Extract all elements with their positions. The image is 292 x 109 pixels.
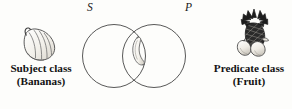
pineapple-fruit-icon	[234, 8, 276, 58]
subject-class-line1: Subject class	[10, 62, 71, 74]
banana-bunch-icon	[17, 27, 61, 63]
venn-diagram-figure: S P Subject class (Bananas)	[0, 0, 292, 109]
subject-class-line2: (Bananas)	[0, 75, 82, 88]
banana-crescent-icon	[129, 36, 151, 68]
predicate-class-label: Predicate class (Fruit)	[206, 62, 292, 87]
set-label-predicate: P	[185, 1, 192, 13]
predicate-class-line2: (Fruit)	[206, 75, 292, 88]
predicate-class-line1: Predicate class	[214, 62, 284, 74]
subject-class-label: Subject class (Bananas)	[0, 62, 82, 87]
set-label-subject: S	[87, 1, 93, 13]
